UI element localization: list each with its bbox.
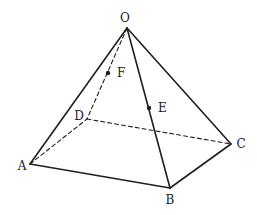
edge-dc-hidden <box>87 119 231 144</box>
edge-ad-hidden <box>30 119 87 164</box>
vertex-label-b: B <box>166 193 175 207</box>
edge-ab <box>30 164 170 188</box>
edge-bc <box>170 144 231 188</box>
edges <box>30 28 231 188</box>
point-label-f: F <box>117 66 125 80</box>
vertex-label-c: C <box>236 137 245 151</box>
vertex-label-a: A <box>17 159 27 173</box>
point-e-dot <box>147 106 151 110</box>
point-f-dot <box>106 71 110 75</box>
edge-oa <box>30 28 127 164</box>
vertex-label-d: D <box>74 109 84 123</box>
vertex-label-o: O <box>120 11 130 25</box>
pyramid-diagram: O A B C D E F <box>0 0 257 215</box>
point-label-e: E <box>158 101 167 115</box>
